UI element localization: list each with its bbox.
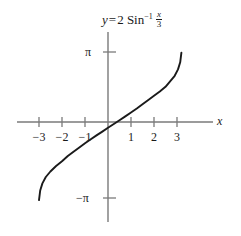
y-tick-label-pi: π (85, 46, 91, 58)
equation-lhs: y (102, 12, 108, 27)
x-tick-label-neg3: −3 (29, 131, 49, 143)
fraction-numerator: x (156, 10, 163, 19)
equation-exponent: −1 (144, 12, 153, 21)
x-tick-label-3: 3 (170, 131, 184, 143)
y-tick-label-neg-pi: −π (76, 192, 89, 204)
plot-canvas (0, 0, 241, 236)
equation-label: y=2 Sin−1x3 (102, 11, 162, 31)
equation-fraction: x3 (156, 10, 163, 30)
x-tick-label-neg2: −2 (52, 131, 72, 143)
graph-figure: y=2 Sin−1x3 −3 −2 −1 1 2 3 π −π x (0, 0, 241, 236)
equation-equals: = (108, 12, 117, 27)
x-tick-label-2: 2 (147, 131, 161, 143)
x-tick-label-neg1: −1 (75, 131, 95, 143)
fraction-denominator: 3 (156, 19, 163, 29)
y-axis-ticks (103, 52, 116, 198)
curve-arcsine (39, 53, 181, 200)
equation-coefficient: 2 (117, 12, 124, 27)
x-axis-label: x (217, 115, 222, 127)
equation-function: Sin (127, 12, 144, 27)
x-tick-label-1: 1 (124, 131, 138, 143)
